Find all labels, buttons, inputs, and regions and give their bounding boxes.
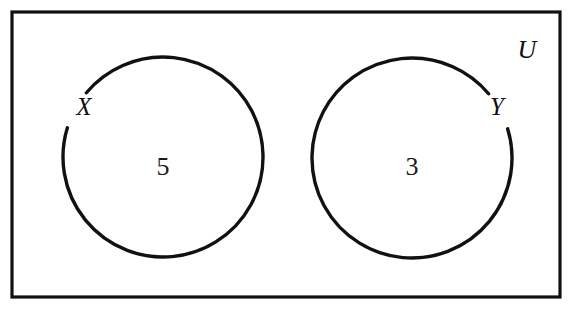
- universal-set-rectangle: [12, 12, 560, 297]
- venn-diagram-canvas: U X Y 5 3: [0, 0, 577, 311]
- set-x-label: X: [75, 93, 93, 120]
- set-y-label: Y: [490, 93, 507, 120]
- set-y-count: 3: [406, 152, 419, 181]
- venn-diagram-svg: U X Y 5 3: [0, 0, 577, 311]
- set-x-count: 5: [157, 152, 170, 181]
- universal-set-label: U: [518, 35, 539, 64]
